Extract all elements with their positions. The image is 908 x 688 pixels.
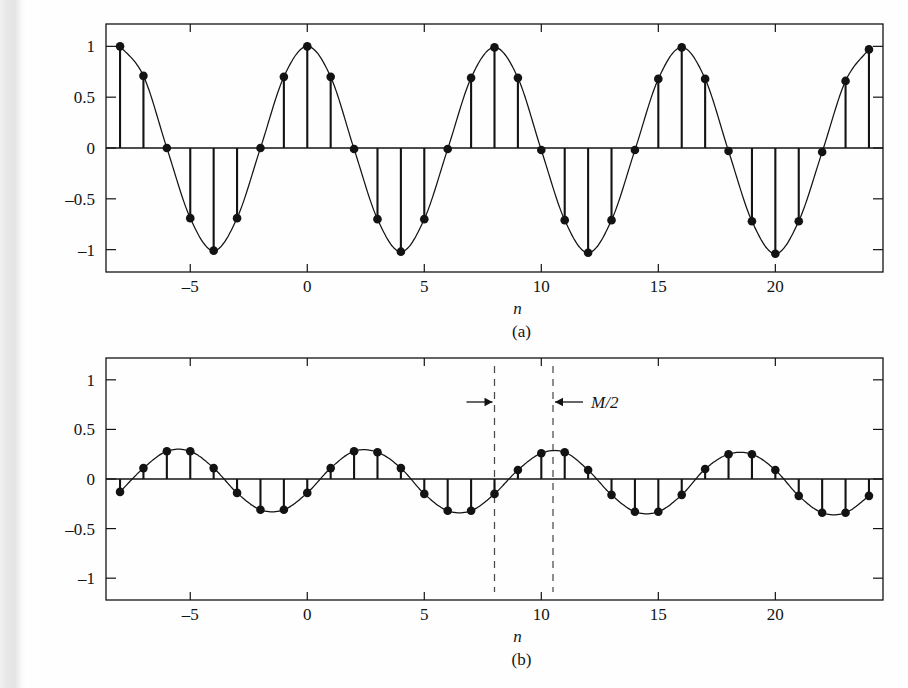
sample-point [326,464,335,473]
sample-point [677,43,686,52]
sample-point [537,449,546,458]
y-tick-label: 0 [87,139,96,158]
sample-point [654,75,663,84]
sample-point [514,466,523,475]
sample-point [748,450,757,459]
x-tick-label: 15 [650,605,667,624]
sample-point [584,466,593,475]
arrow-left-head-icon [555,398,563,406]
sample-point [280,73,289,82]
figure-page: 10.50–0.5–1–505101520n(a) M/210.50–0.5–1… [0,0,908,688]
x-tick-label: 0 [303,277,312,296]
sample-point [233,214,242,223]
sample-point [443,506,452,515]
y-tick-label: –0.5 [64,190,95,209]
x-axis-label: n [513,299,522,318]
x-tick-label: 5 [420,605,429,624]
y-tick-label: –1 [77,241,95,260]
sample-point [303,489,312,498]
sample-point [701,465,710,474]
annotation-label-m-over-2: M/2 [590,393,619,412]
sample-point [467,74,476,83]
sample-point [350,145,359,154]
x-tick-label: 20 [767,605,784,624]
arrow-right-head-icon [485,398,493,406]
sample-point [116,488,125,497]
y-tick-label: 1 [87,371,96,390]
sample-point [677,491,686,500]
x-tick-label: –5 [181,605,199,624]
sample-point [818,148,827,157]
sample-point [420,490,429,499]
sample-point [490,490,499,499]
sample-point [303,42,312,51]
sample-point [607,216,616,225]
sample-point [724,147,733,156]
sample-point [794,492,803,501]
sample-point [701,75,710,84]
panel-caption: (b) [512,650,532,669]
stem-group [116,42,874,258]
sample-point [186,214,195,223]
sample-point [818,508,827,517]
y-tick-label: –1 [77,569,95,588]
sample-point [490,43,499,52]
sample-point [163,144,172,153]
sample-point [560,448,569,457]
sample-point [397,247,406,256]
sample-point [420,215,429,224]
sample-point [654,507,663,516]
sample-point [724,450,733,459]
sample-point [748,217,757,226]
x-tick-label: 10 [533,605,550,624]
sample-point [514,74,523,83]
sample-point [794,217,803,226]
sample-point [607,491,616,500]
sample-point [841,77,850,86]
x-tick-label: 15 [650,277,667,296]
sample-point [209,464,218,473]
x-axis-label: n [513,627,522,646]
sample-point [443,145,452,154]
plot-panel-b: M/210.50–0.5–1–505101520n(b) [0,344,908,688]
y-tick-label: 0.5 [74,420,95,439]
sample-point [771,466,780,475]
y-tick-label: 0.5 [74,88,95,107]
sample-point [280,505,289,514]
sample-point [373,215,382,224]
sample-point [771,249,780,258]
sample-point [139,72,148,81]
x-tick-label: 0 [303,605,312,624]
sample-point [865,45,874,54]
sample-point [584,248,593,257]
sample-point [397,464,406,473]
plot-panel-a: 10.50–0.5–1–505101520n(a) [0,0,908,344]
sample-point [350,447,359,456]
sample-point [116,42,125,51]
x-tick-label: 5 [420,277,429,296]
sample-point [233,489,242,498]
x-tick-label: –5 [181,277,199,296]
y-tick-label: –0.5 [64,520,95,539]
sample-point [631,507,640,516]
y-tick-label: 1 [87,37,96,56]
sample-point [373,448,382,457]
sample-point [186,447,195,456]
x-tick-label: 10 [533,277,550,296]
figure-container: 10.50–0.5–1–505101520n(a) M/210.50–0.5–1… [0,0,908,688]
sample-point [139,464,148,473]
x-tick-label: 20 [767,277,784,296]
sample-point [560,216,569,225]
sample-point [631,146,640,155]
sample-point [256,505,265,514]
sample-point [467,506,476,515]
sample-point [841,508,850,517]
y-tick-label: 0 [87,470,96,489]
sample-point [865,492,874,501]
sample-point [256,144,265,153]
panel-caption: (a) [512,322,531,341]
sample-point [537,146,546,155]
sample-point [163,447,172,456]
sample-point [209,246,218,255]
sample-point [326,73,335,82]
